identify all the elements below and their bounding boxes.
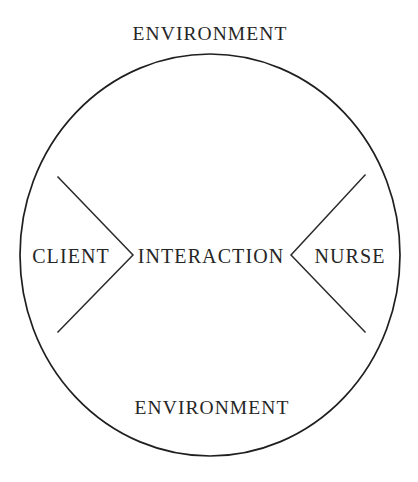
nurse-label: NURSE (314, 245, 385, 267)
environment-label-top: ENVIRONMENT (133, 23, 288, 44)
interaction-label: INTERACTION (138, 245, 285, 267)
diagram-canvas: ENVIRONMENT ENVIRONMENT CLIENT INTERACTI… (0, 0, 418, 482)
environment-label-bottom: ENVIRONMENT (135, 397, 290, 418)
interaction-model-diagram: ENVIRONMENT ENVIRONMENT CLIENT INTERACTI… (0, 0, 418, 482)
client-label: CLIENT (32, 245, 110, 267)
